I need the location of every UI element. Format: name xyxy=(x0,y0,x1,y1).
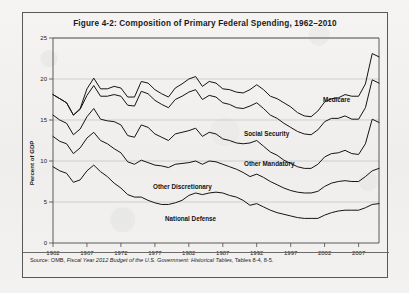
source-note: Source: OMB, Fiscal Year 2012 Budget of … xyxy=(30,257,273,263)
source-suffix: , Tables 8-4, 8-5. xyxy=(232,257,274,263)
y-tick-label-0: 0 xyxy=(44,240,48,246)
series-line-other-discretionary xyxy=(53,132,379,193)
y-tick-marks xyxy=(49,38,53,243)
x-tick-marks xyxy=(53,243,359,247)
series-line-other-mandatory xyxy=(53,109,379,169)
source-prefix: Source: OMB, xyxy=(30,257,67,263)
series-label-national-defense: National Defense xyxy=(165,215,217,222)
y-axis-title: Percent of GDP xyxy=(28,141,35,186)
series-line-social-security xyxy=(53,80,379,135)
series-line-national-defense xyxy=(53,165,379,218)
series-labels: Medicare Social Security Other Mandatory… xyxy=(153,96,351,222)
source-divider xyxy=(23,252,389,253)
series-label-medicare: Medicare xyxy=(323,96,351,103)
y-tick-label-15: 15 xyxy=(40,117,47,123)
series-label-other-mandatory: Other Mandatory xyxy=(244,160,295,168)
y-tick-label-5: 5 xyxy=(44,199,48,205)
chart-plot: 25 20 15 10 5 0 Percent of GDP xyxy=(23,13,387,277)
y-tick-label-25: 25 xyxy=(40,35,47,41)
series-line-medicare xyxy=(53,54,379,117)
source-publication: Fiscal Year 2012 Budget of the U.S. Gove… xyxy=(67,257,232,263)
y-tick-label-20: 20 xyxy=(40,76,47,82)
y-tick-label-10: 10 xyxy=(40,158,47,164)
figure-container: Figure 4-2: Composition of Primary Feder… xyxy=(22,12,388,278)
series-label-other-discretionary: Other Discretionary xyxy=(153,183,212,191)
series-label-social-security: Social Security xyxy=(244,130,290,138)
series-lines xyxy=(53,54,379,219)
page-background: Figure 4-2: Composition of Primary Feder… xyxy=(0,0,409,293)
plot-frame xyxy=(53,38,379,243)
y-tick-labels: 25 20 15 10 5 0 xyxy=(40,35,47,246)
